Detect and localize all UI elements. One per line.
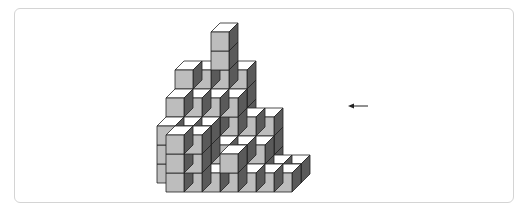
cube-front-face: [166, 173, 184, 192]
cube-front-face: [211, 51, 229, 70]
cube-front-face: [175, 70, 193, 89]
cube-front-face: [211, 32, 229, 51]
cube-front-face: [166, 154, 184, 173]
arrow-left-icon: [348, 104, 354, 109]
cube-front-face: [220, 154, 238, 173]
cube-front-face: [166, 135, 184, 154]
cube-stack-diagram: [0, 0, 530, 215]
cube-front-face: [166, 98, 184, 117]
